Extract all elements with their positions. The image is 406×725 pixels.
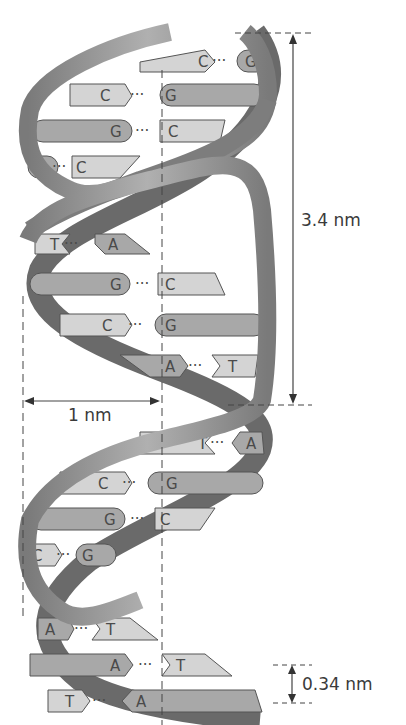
base-pair: CG ··· bbox=[70, 84, 265, 106]
svg-text:···: ··· bbox=[56, 546, 70, 564]
svg-text:A: A bbox=[110, 657, 121, 675]
svg-text:···: ··· bbox=[130, 510, 144, 528]
svg-text:···: ··· bbox=[64, 235, 78, 253]
svg-text:G: G bbox=[165, 87, 177, 105]
svg-text:A: A bbox=[165, 358, 176, 376]
svg-text:A: A bbox=[45, 621, 56, 639]
svg-text:C: C bbox=[98, 475, 108, 493]
svg-text:C: C bbox=[102, 317, 112, 335]
svg-text:T: T bbox=[64, 693, 75, 711]
svg-text:G: G bbox=[166, 475, 178, 493]
base-pair: CG ··· bbox=[140, 50, 267, 72]
svg-text:···: ··· bbox=[135, 275, 149, 293]
radius-label: 1 nm bbox=[68, 405, 112, 425]
svg-text:T: T bbox=[49, 236, 60, 254]
svg-text:G: G bbox=[110, 276, 122, 294]
svg-text:C: C bbox=[100, 87, 110, 105]
svg-text:T: T bbox=[175, 657, 186, 675]
svg-text:G: G bbox=[165, 317, 177, 335]
svg-text:C: C bbox=[76, 159, 86, 177]
svg-text:T: T bbox=[105, 621, 116, 639]
svg-text:A: A bbox=[108, 236, 119, 254]
dna-helix-diagram: CG ··· CG ··· GC ··· GC ··· TA bbox=[0, 0, 406, 725]
svg-text:T: T bbox=[227, 358, 238, 376]
svg-text:···: ··· bbox=[135, 122, 149, 140]
svg-text:G: G bbox=[110, 123, 122, 141]
svg-text:···: ··· bbox=[188, 357, 202, 375]
svg-text:C: C bbox=[165, 276, 175, 294]
svg-text:A: A bbox=[246, 435, 257, 453]
base-pair: TA ··· bbox=[48, 690, 262, 712]
svg-text:···: ··· bbox=[212, 52, 226, 70]
svg-text:···: ··· bbox=[130, 86, 144, 104]
svg-text:G: G bbox=[82, 547, 94, 565]
svg-text:···: ··· bbox=[92, 692, 106, 710]
svg-text:A: A bbox=[136, 693, 147, 711]
base-pair: AT ··· bbox=[30, 654, 232, 676]
base-pair: GC ··· bbox=[32, 120, 225, 142]
svg-text:C: C bbox=[168, 123, 178, 141]
base-spacing-label: 0.34 nm bbox=[302, 674, 373, 694]
svg-text:···: ··· bbox=[138, 656, 152, 674]
svg-text:···: ··· bbox=[210, 434, 224, 452]
svg-text:···: ··· bbox=[122, 474, 136, 492]
pitch-label: 3.4 nm bbox=[301, 210, 361, 230]
svg-text:C: C bbox=[198, 53, 208, 71]
base-pair: GC ··· bbox=[30, 508, 215, 530]
base-pair: GC ··· bbox=[30, 273, 225, 295]
svg-text:···: ··· bbox=[128, 316, 142, 334]
svg-text:G: G bbox=[104, 511, 116, 529]
